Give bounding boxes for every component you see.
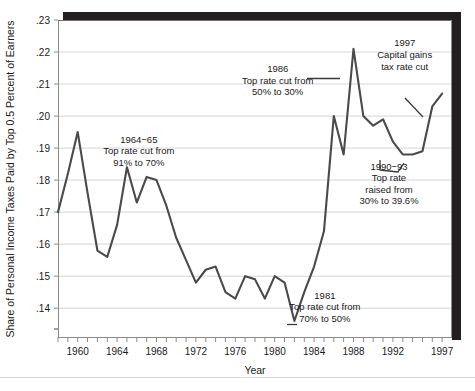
x-tick-label: 1984 xyxy=(303,346,326,357)
annot-1990-93-line: 1990−93 xyxy=(370,161,407,172)
x-tick-label: 1960 xyxy=(67,346,90,357)
annot-1964-line: Top rate cut from xyxy=(103,145,174,156)
x-tick-label: 1976 xyxy=(224,346,247,357)
x-tick-label: 1997 xyxy=(431,346,454,357)
annot-1981-line: 1981 xyxy=(314,290,335,301)
y-tick-label: .14 xyxy=(36,303,50,314)
y-tick-label: .22 xyxy=(36,47,50,58)
line-chart: .14.15.16.17.18.19.20.21.22.23 196019641… xyxy=(0,0,475,391)
annot-1981-line: 70% to 50% xyxy=(299,313,351,324)
annot-1997-line: Capital gains xyxy=(377,49,432,60)
y-tick-label: .21 xyxy=(36,79,50,90)
y-axis-ticks: .14.15.16.17.18.19.20.21.22.23 xyxy=(36,15,58,329)
annot-1990-93-line: Top rate xyxy=(372,172,406,183)
x-tick-label: 1988 xyxy=(342,346,365,357)
annot-1981-line: Top rate cut from xyxy=(289,301,360,312)
annot-1990-93-line: raised from xyxy=(365,184,413,195)
x-tick-label: 1980 xyxy=(264,346,287,357)
annot-1986-line: Top rate cut from xyxy=(242,75,313,86)
x-tick-label: 1992 xyxy=(382,346,405,357)
y-tick-label: .18 xyxy=(36,175,50,186)
x-tick-label: 1968 xyxy=(145,346,168,357)
annot-1964-line: 1964−65 xyxy=(120,134,157,145)
annot-1964-line: 91% to 70% xyxy=(113,157,165,168)
chart-figure: .14.15.16.17.18.19.20.21.22.23 196019641… xyxy=(0,0,475,391)
annot-1990-93-line: 30% to 39.6% xyxy=(359,195,419,206)
annot-1986-line: 50% to 30% xyxy=(252,86,304,97)
y-tick-label: .23 xyxy=(36,15,50,26)
annot-1997-line: tax rate cut xyxy=(381,61,428,72)
y-tick-label: .15 xyxy=(36,271,50,282)
y-tick-label: .19 xyxy=(36,143,50,154)
y-tick-label: .20 xyxy=(36,111,50,122)
footer-divider xyxy=(0,377,475,378)
annot-1986-line: 1986 xyxy=(267,63,288,74)
x-tick-label: 1964 xyxy=(106,346,129,357)
y-tick-label: .17 xyxy=(36,207,50,218)
annot-1997-line: 1997 xyxy=(394,37,415,48)
y-tick-label: .16 xyxy=(36,239,50,250)
y-axis-title: Share of Personal Income Taxes Paid by T… xyxy=(4,20,16,337)
x-axis-title: Year xyxy=(244,364,266,376)
x-tick-label: 1972 xyxy=(185,346,208,357)
x-axis-ticks: 1960196419681972197619801984198819921997 xyxy=(58,337,454,357)
